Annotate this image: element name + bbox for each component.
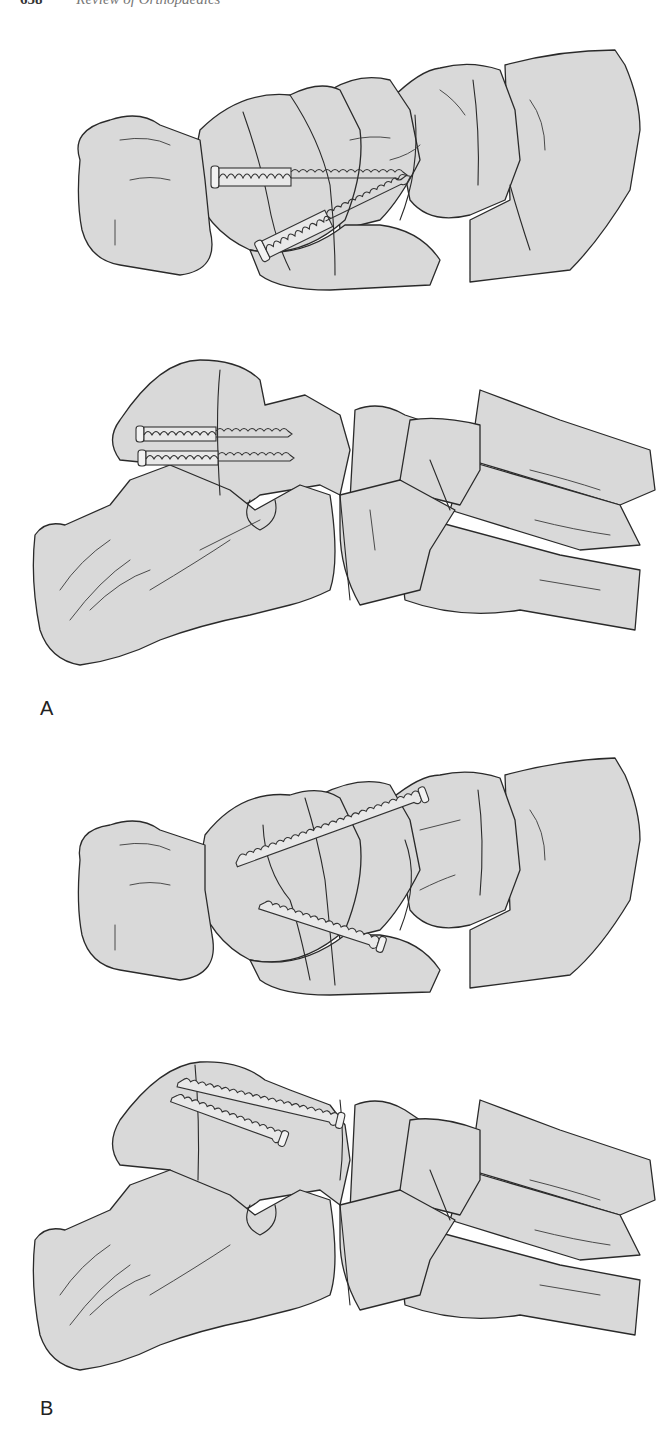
page-number: 658 bbox=[20, 0, 43, 7]
figure-a-dorsal-view bbox=[0, 20, 663, 320]
panel-label-b: B bbox=[40, 1397, 53, 1420]
figure-b-dorsal-view bbox=[0, 730, 663, 1020]
panel-label-a: A bbox=[40, 697, 53, 720]
figure-b-lateral-view bbox=[0, 1030, 663, 1380]
running-head-title: Review of Orthopaedics bbox=[76, 0, 220, 7]
figure-a-lateral-view bbox=[0, 320, 663, 680]
running-head: 658 Review of Orthopaedics bbox=[20, 0, 220, 7]
